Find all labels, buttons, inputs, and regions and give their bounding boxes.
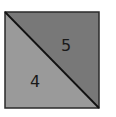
label-upper-right: 5 (61, 36, 71, 55)
divided-square-diagram: 5 4 (0, 0, 116, 117)
label-lower-left: 4 (30, 72, 40, 91)
